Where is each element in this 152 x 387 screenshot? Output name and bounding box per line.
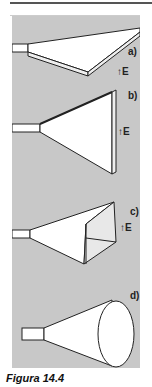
panel-b: b) ↑E	[12, 88, 140, 196]
conical-horn-diagram	[12, 284, 140, 368]
panel-label-b: b)	[128, 90, 137, 101]
panel-label-a: a)	[128, 46, 137, 57]
figure-caption: Figura 14.4	[6, 372, 64, 384]
panel-d: d)	[12, 284, 140, 368]
e-field-label-c: E	[125, 222, 132, 233]
e-field-label-b: E	[123, 126, 130, 137]
sectoral-horn-b-diagram	[12, 88, 140, 196]
panel-label-d: d)	[130, 290, 139, 301]
panel-c: c) ↑E	[12, 196, 140, 284]
panel-label-c: c)	[130, 206, 139, 217]
pyramidal-horn-diagram	[12, 196, 140, 284]
e-field-arrow-c: ↑E	[120, 222, 132, 233]
e-field-arrow-a: ↑E	[117, 66, 129, 77]
e-field-arrow-b: ↑E	[118, 126, 130, 137]
top-rule	[10, 2, 152, 4]
e-field-label-a: E	[122, 66, 129, 77]
